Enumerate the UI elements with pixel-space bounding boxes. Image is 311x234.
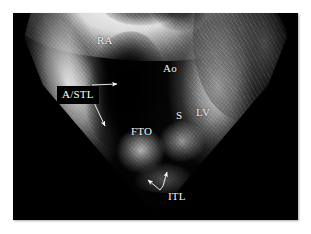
ultrasound-sector: [22, 13, 290, 217]
figure-root: RA Ao S LV FTO ITL A/STL: [0, 0, 311, 234]
label-fto: FTO: [131, 126, 152, 137]
label-astl-boxed: A/STL: [57, 86, 99, 104]
ultrasound-image-plate: RA Ao S LV FTO ITL A/STL: [13, 13, 298, 220]
label-ao: Ao: [163, 63, 177, 74]
sector-vignette: [22, 13, 290, 217]
label-s: S: [176, 110, 182, 121]
label-lv: LV: [196, 107, 210, 118]
label-ra: RA: [97, 35, 113, 46]
label-itl: ITL: [168, 191, 186, 202]
